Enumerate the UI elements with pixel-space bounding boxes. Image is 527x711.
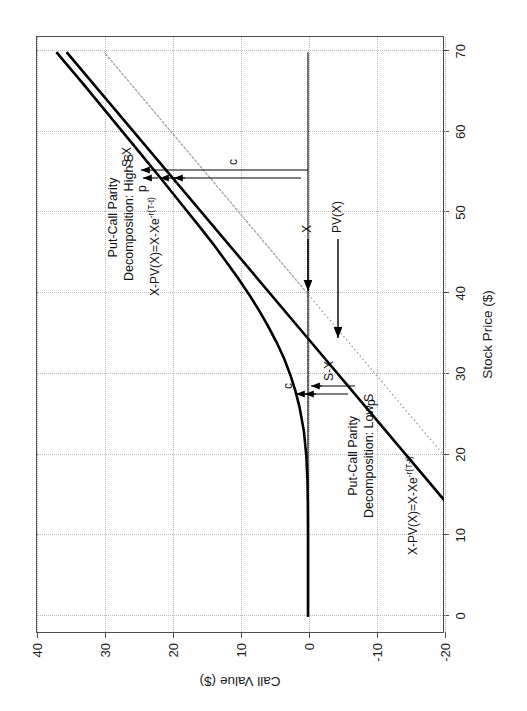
high-s-smx-label: S-X <box>120 147 135 167</box>
high-s-timevalue-exponent: -r(T-t) <box>146 197 156 218</box>
high-s-timevalue-label: X-PV(X)=X-Xe-r(T-t) <box>146 197 163 296</box>
high-s-timevalue-prefix: X-PV(X)=X-Xe <box>148 218 162 296</box>
plot-canvas <box>0 0 527 711</box>
high-s-title-line1: Put-Call Parity <box>105 154 121 281</box>
plot-root: 010203040506070-20-10010203040 <box>0 0 527 711</box>
curve-s-minus-x <box>104 52 527 617</box>
curve-s-minus-pv-x <box>67 52 527 617</box>
low-s-timevalue-exponent: -r(T-t) <box>404 456 414 477</box>
low-s-annotation-title: Put-Call Parity Decomposition: Low S <box>345 394 377 518</box>
high-s-c-label: c <box>226 159 241 165</box>
strike-arrow-group <box>308 239 338 338</box>
x-axis-title: Stock Price ($) <box>480 36 495 633</box>
low-s-timevalue-label: X-PV(X)=X-Xe-r(T-t) <box>404 456 421 555</box>
curve-call-value <box>56 52 308 617</box>
high-s-p-label: p <box>135 185 150 192</box>
high-s-title-line2: Decomposition: High S <box>121 154 137 281</box>
low-s-smx-label: S-X <box>322 361 337 381</box>
curve-intrinsic-value <box>104 52 308 617</box>
low-s-p-label: p <box>364 399 379 406</box>
low-s-title-line2: Decomposition: Low S <box>361 394 377 518</box>
y-axis-title: Call Value ($) <box>36 674 444 689</box>
low-s-timevalue-prefix: X-PV(X)=X-Xe <box>406 477 420 555</box>
high-s-annotation-title: Put-Call Parity Decomposition: High S <box>105 154 137 281</box>
strike-pvx-label: PV(X) <box>330 201 345 233</box>
rotated-figure-wrapper: 010203040506070-20-10010203040 <box>0 0 527 711</box>
strike-x-label: X <box>300 225 315 233</box>
low-s-title-line1: Put-Call Parity <box>345 394 361 518</box>
low-s-c-label: c <box>281 383 296 389</box>
